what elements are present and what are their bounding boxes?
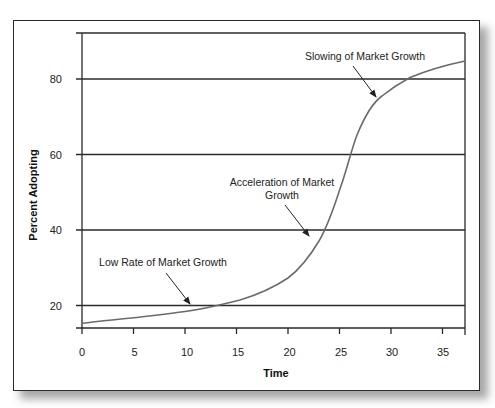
- y-tick-20: 20: [50, 300, 62, 312]
- x-tick-5: 5: [131, 346, 137, 358]
- adoption-chart: 80 60 40 20 0 5 10 15 20 25 30 35 Time P…: [0, 0, 495, 408]
- annotation-low-growth: Low Rate of Market Growth: [99, 256, 227, 304]
- y-tick-40: 40: [50, 224, 62, 236]
- x-tick-labels: 0 5 10 15 20 25 30 35: [79, 346, 449, 358]
- annotation-slowing-text: Slowing of Market Growth: [305, 50, 425, 62]
- x-tick-25: 25: [335, 346, 347, 358]
- annotation-acceleration-text-1: Acceleration of Market: [230, 176, 335, 188]
- x-tick-15: 15: [232, 346, 244, 358]
- x-tick-35: 35: [437, 346, 449, 358]
- y-tick-labels: 80 60 40 20: [50, 73, 62, 312]
- annotation-acceleration: Acceleration of Market Growth: [230, 176, 335, 236]
- x-tick-0: 0: [79, 346, 85, 358]
- x-axis-title: Time: [263, 367, 288, 379]
- y-axis-title: Percent Adopting: [27, 149, 39, 240]
- annotation-acceleration-text-2: Growth: [265, 189, 299, 201]
- annotation-low-growth-text: Low Rate of Market Growth: [99, 256, 227, 268]
- x-tick-10: 10: [181, 346, 193, 358]
- annotation-slowing: Slowing of Market Growth: [305, 50, 425, 97]
- y-tick-80: 80: [50, 73, 62, 85]
- x-tick-20: 20: [283, 346, 295, 358]
- y-tick-60: 60: [50, 149, 62, 161]
- x-tick-30: 30: [386, 346, 398, 358]
